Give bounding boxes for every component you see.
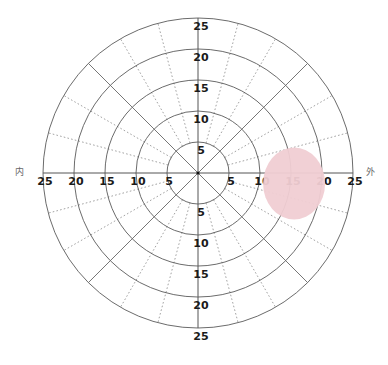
tick-right-25: 25 xyxy=(347,175,362,188)
diagonal-radial-225 xyxy=(88,173,198,283)
tick-left-20: 20 xyxy=(68,175,84,188)
tick-left-25: 25 xyxy=(37,175,52,188)
tick-left-10: 10 xyxy=(130,175,146,188)
tick-top-15: 15 xyxy=(193,82,208,95)
tick-left-5: 5 xyxy=(165,175,173,188)
blind-spot-ellipse xyxy=(263,148,325,220)
tick-top-20: 20 xyxy=(193,51,209,64)
tick-top-5: 5 xyxy=(197,144,205,157)
left-side-label-nasal: 内 xyxy=(15,166,24,177)
tick-bottom-10: 10 xyxy=(193,237,209,250)
tick-top-10: 10 xyxy=(193,113,209,126)
blind-spot-region xyxy=(263,148,325,220)
fixation-point xyxy=(196,171,199,174)
diagonal-radial-135 xyxy=(88,63,198,173)
tick-bottom-25: 25 xyxy=(193,330,208,343)
tick-top-25: 25 xyxy=(193,20,208,33)
visual-field-chart: 510152025510152025510152025510152025 内 外 xyxy=(0,0,388,365)
right-side-label-temporal: 外 xyxy=(366,166,375,177)
tick-bottom-15: 15 xyxy=(193,268,208,281)
tick-left-15: 15 xyxy=(99,175,114,188)
tick-right-5: 5 xyxy=(227,175,235,188)
tick-bottom-5: 5 xyxy=(197,206,205,219)
tick-bottom-20: 20 xyxy=(193,299,209,312)
